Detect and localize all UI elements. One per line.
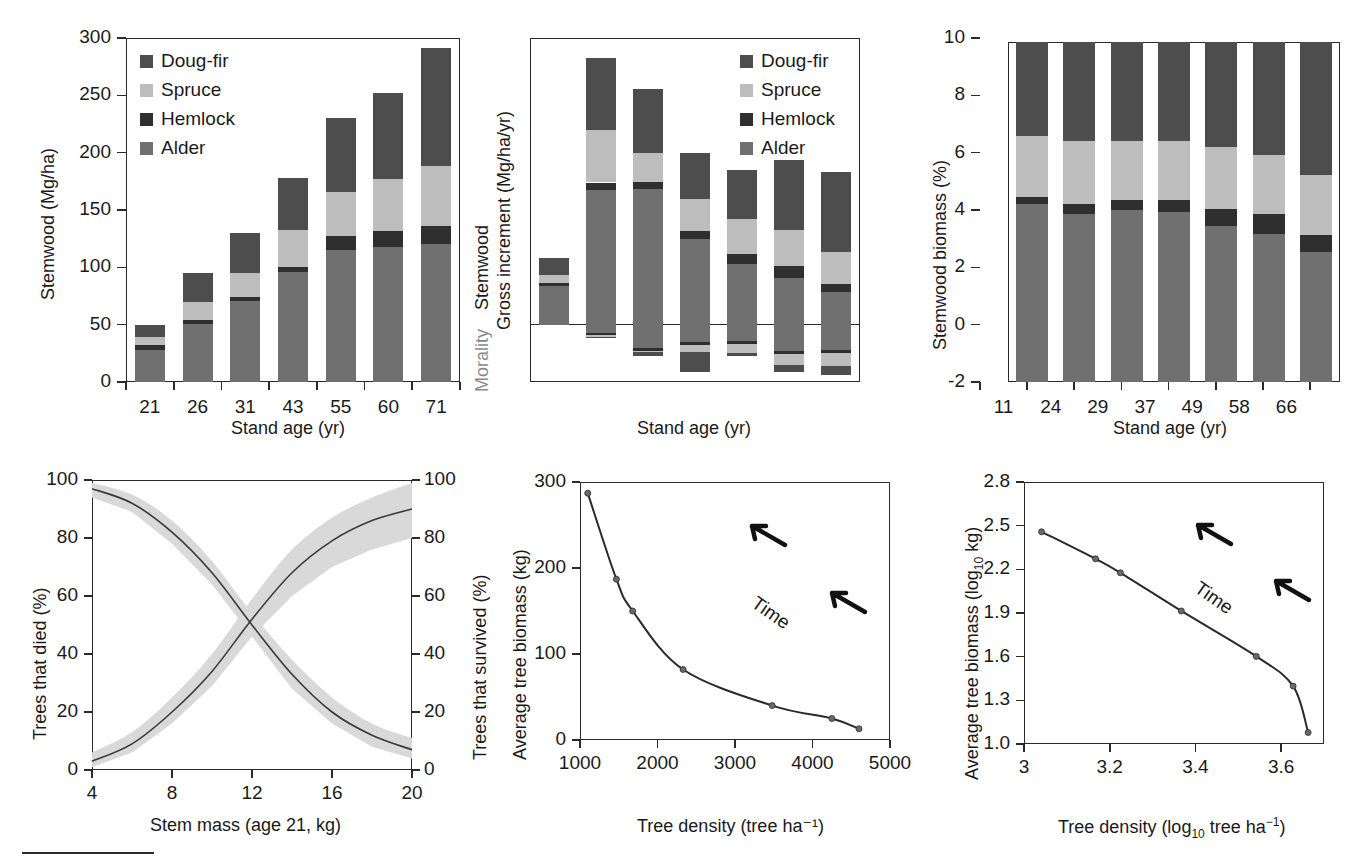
bar-21 bbox=[1016, 42, 1048, 382]
bar-segment-alder bbox=[1016, 204, 1048, 382]
bar-segment-hemlock bbox=[1063, 204, 1095, 213]
y-tick-label: 1.6 bbox=[954, 645, 1010, 667]
y-tick-label: 150 bbox=[55, 198, 111, 220]
bar-segment-spruce bbox=[586, 130, 616, 182]
panel-a-xlabel: Stand age (yr) bbox=[231, 418, 345, 439]
x-tick bbox=[1280, 744, 1282, 752]
bar-mortality-66 bbox=[821, 325, 851, 382]
bar-segment-doug-fir bbox=[586, 58, 616, 130]
y-tick bbox=[84, 537, 92, 539]
bar-segment-spruce bbox=[421, 166, 451, 226]
x-tick-label: 3.6 bbox=[1237, 756, 1325, 778]
panel-b-xlabel: Stand age (yr) bbox=[637, 418, 751, 439]
data-point-6 bbox=[1305, 730, 1311, 736]
bar-segment-spruce bbox=[1158, 141, 1190, 200]
bar-segment-alder bbox=[727, 264, 757, 324]
y-tick-label: 2.8 bbox=[954, 470, 1010, 492]
panel-d-xlabel: Stem mass (age 21, kg) bbox=[150, 815, 341, 836]
bar-segment-spruce bbox=[680, 199, 710, 231]
y-tick bbox=[84, 479, 92, 481]
data-point-5 bbox=[1290, 683, 1296, 689]
bar-segment-spruce bbox=[278, 230, 308, 268]
bar-segment-spruce bbox=[326, 192, 356, 237]
data-point-0 bbox=[585, 490, 591, 496]
panel-d-curves bbox=[92, 480, 412, 770]
x-tick bbox=[889, 740, 891, 748]
bar-segment-alder bbox=[727, 325, 757, 342]
bar-segment-alder bbox=[633, 189, 663, 324]
bar-gross-24 bbox=[586, 38, 616, 325]
bar-segment-spruce bbox=[1016, 136, 1048, 196]
y-tick bbox=[1016, 612, 1024, 614]
bar-segment-spruce bbox=[727, 219, 757, 254]
bar-55 bbox=[1205, 42, 1237, 382]
bar-71 bbox=[1300, 42, 1332, 382]
panel-b-bars bbox=[530, 38, 860, 382]
data-point-6 bbox=[856, 726, 862, 732]
x-tick-label: 2000 bbox=[614, 752, 702, 774]
time-arrow-upper-icon bbox=[1198, 525, 1231, 544]
x-tick bbox=[1023, 744, 1025, 752]
bar-segment-alder bbox=[278, 272, 308, 382]
data-point-1 bbox=[613, 576, 619, 582]
bar-segment-doug-fir bbox=[1063, 42, 1095, 141]
y-tick bbox=[117, 324, 126, 326]
panel-f-curve bbox=[1024, 482, 1324, 744]
bar-segment-spruce bbox=[774, 354, 804, 365]
panel-e-density-biomass: Average tree biomass (kg) 0100200300 100… bbox=[450, 440, 900, 860]
x-tick bbox=[268, 382, 270, 390]
bar-segment-hemlock bbox=[1205, 209, 1237, 226]
bar-31 bbox=[1111, 42, 1143, 382]
bar-segment-spruce bbox=[1205, 147, 1237, 209]
bar-segment-alder bbox=[230, 301, 260, 382]
bar-segment-doug-fir bbox=[278, 178, 308, 230]
bar-segment-spruce bbox=[183, 302, 213, 320]
y-tick-label: 100 bbox=[55, 255, 111, 277]
bar-gross-49 bbox=[727, 38, 757, 325]
bar-segment-spruce bbox=[821, 353, 851, 366]
x-tick-label: 3.4 bbox=[1151, 756, 1239, 778]
bar-71 bbox=[421, 38, 451, 382]
y-tick-right bbox=[412, 479, 420, 481]
bar-segment-spruce bbox=[727, 344, 757, 353]
x-tick bbox=[171, 770, 173, 778]
x-tick bbox=[657, 740, 659, 748]
bar-segment-doug-fir bbox=[230, 233, 260, 273]
data-curve bbox=[588, 493, 859, 729]
y-tick bbox=[84, 653, 92, 655]
x-tick-label: 20 bbox=[368, 782, 456, 804]
bar-gross-58 bbox=[774, 38, 804, 325]
y-tick bbox=[1016, 525, 1024, 527]
y-tick-label: 60 bbox=[22, 584, 78, 606]
bar-segment-alder bbox=[774, 325, 804, 351]
bar-43 bbox=[1158, 42, 1190, 382]
bar-segment-hemlock bbox=[1158, 200, 1190, 212]
panel-e-curve bbox=[580, 482, 890, 740]
bar-segment-hemlock bbox=[821, 284, 851, 293]
bar-26 bbox=[183, 38, 213, 382]
x-tick bbox=[411, 770, 413, 778]
bar-21 bbox=[135, 38, 165, 382]
bar-31 bbox=[230, 38, 260, 382]
bar-segment-hemlock bbox=[680, 231, 710, 239]
x-tick-label: 3.2 bbox=[1066, 756, 1154, 778]
bar-segment-alder bbox=[1300, 252, 1332, 382]
y-tick-label: 100 bbox=[510, 642, 566, 664]
bar-segment-doug-fir bbox=[539, 258, 569, 275]
bar-55 bbox=[326, 38, 356, 382]
y-tick bbox=[84, 595, 92, 597]
y-tick-right bbox=[412, 595, 420, 597]
y-tick-label: 1.3 bbox=[954, 688, 1010, 710]
y-tick-label: 2.5 bbox=[954, 514, 1010, 536]
x-tick-label: 8 bbox=[128, 782, 216, 804]
y-tick bbox=[117, 95, 126, 97]
x-tick bbox=[1195, 744, 1197, 752]
bar-segment-hemlock bbox=[633, 182, 663, 189]
x-tick-label: 16 bbox=[288, 782, 376, 804]
x-tick bbox=[1109, 744, 1111, 752]
panel-b-increment: Stemwood Gross increment (Mg/ha/yr) Mora… bbox=[450, 0, 920, 440]
bar-segment-doug-fir bbox=[1158, 42, 1190, 141]
bar-segment-alder bbox=[774, 278, 804, 324]
x-tick-label: 3 bbox=[980, 756, 1068, 778]
x-tick-label: 12 bbox=[208, 782, 296, 804]
